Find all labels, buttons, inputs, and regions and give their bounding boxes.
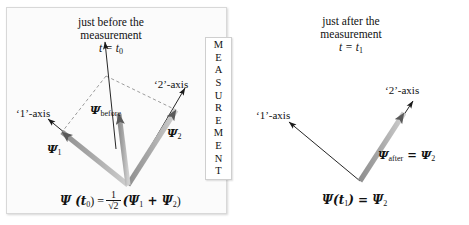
right-time-label: t = t1	[286, 41, 416, 55]
measurement-letter: S	[216, 77, 222, 90]
label-psi-before-symbol: Ψ	[90, 103, 101, 117]
eq-right-lhs-tail: ) = Ψ	[348, 193, 383, 207]
label-psi2-subscript: 2	[178, 132, 182, 141]
label-psi2: Ψ2	[167, 126, 182, 141]
right-heading: just after the measurement	[286, 15, 416, 40]
measurement-label-box: M E A S U R E M E N T	[205, 37, 232, 180]
measurement-letter: U	[215, 90, 223, 103]
vector-psi1	[62, 132, 128, 185]
label-psi1: Ψ1	[47, 142, 62, 157]
label-psi-after-subscript: after	[389, 154, 404, 163]
label-axis-1-left: ‘1’-axis	[16, 107, 50, 119]
label-psi1-symbol: Ψ	[47, 142, 58, 156]
eq-left-lhs-tail: ) =	[90, 194, 104, 208]
label-psi1-subscript: 1	[58, 148, 62, 157]
axis-1-arrow-right	[289, 122, 360, 181]
equation-after: Ψ(t1) = Ψ2	[322, 193, 387, 208]
label-axis-2-left: ‘2’-axis	[154, 78, 188, 90]
label-psi-before-subscript: before	[101, 109, 121, 118]
label-psi-before: Ψbefore	[90, 103, 121, 118]
label-psi2-symbol: Ψ	[167, 126, 178, 140]
label-axis-2-right: ‘2’-axis	[385, 84, 419, 96]
eq-left-frac-num: 1	[106, 190, 121, 200]
measurement-letter: E	[215, 140, 221, 153]
measurement-letter: M	[214, 39, 223, 52]
label-psi-after-eq-sub: 2	[431, 154, 435, 163]
vector-psi-after	[360, 113, 404, 181]
measurement-letter: A	[215, 64, 223, 77]
state-vectors-left	[62, 110, 176, 185]
measurement-letter: E	[215, 115, 221, 128]
label-psi-after-symbol: Ψ	[378, 148, 389, 162]
measurement-letter: M	[214, 127, 223, 140]
measurement-letter: N	[215, 153, 223, 166]
eq-right-lhs: Ψ(t	[322, 193, 344, 207]
left-time-subscript: 0	[119, 47, 123, 56]
eq-left-fraction: 1√2	[106, 190, 121, 211]
vector-psi2	[128, 110, 176, 185]
eq-left-lhs: Ψ (t	[60, 194, 86, 208]
left-heading-line1: just before the	[78, 16, 144, 28]
label-psi-after: Ψafter = Ψ2	[378, 148, 435, 163]
right-heading-line2: measurement	[320, 28, 381, 40]
vector-psi-before	[119, 114, 128, 185]
time-pointer-arrow-left	[105, 42, 116, 149]
left-heading: just before the measurement	[46, 16, 176, 41]
eq-left-frac-den: √2	[106, 200, 121, 211]
left-time-text: t = t	[99, 42, 119, 54]
axis-arrows-right	[289, 101, 413, 181]
equation-before: Ψ (t0) =1√2(Ψ1 + Ψ2)	[60, 190, 181, 211]
eq-left-rhs-plus: + Ψ	[143, 194, 172, 208]
right-time-subscript: 1	[359, 46, 363, 55]
eq-left-rhs-open: (Ψ	[123, 194, 140, 208]
label-psi-after-eq: = Ψ	[403, 148, 431, 162]
figure-canvas: just before the measurement t = t0 ‘1’-a…	[0, 0, 469, 225]
left-heading-line2: measurement	[80, 29, 141, 41]
eq-left-rhs-close: )	[177, 194, 181, 208]
state-vectors-right	[360, 113, 404, 181]
measurement-letter: E	[215, 52, 221, 65]
eq-right-rhs-sub: 2	[383, 199, 387, 208]
label-axis-1-right: ‘1’-axis	[256, 109, 290, 121]
left-time-label: t = t0	[46, 42, 176, 56]
measurement-letter: R	[215, 102, 222, 115]
right-heading-line1: just after the	[322, 15, 379, 27]
right-time-text: t = t	[339, 41, 359, 53]
measurement-letter: T	[215, 165, 221, 178]
